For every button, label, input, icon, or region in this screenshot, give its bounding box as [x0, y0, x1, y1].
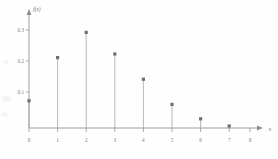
x-tick-label: 5: [171, 137, 174, 143]
x-axis-arrow-icon: [257, 126, 263, 131]
x-tick-label: 3: [114, 137, 117, 143]
x-axis-title: x: [268, 126, 272, 132]
stem-marker: [85, 31, 88, 34]
x-tick-label: 8: [249, 137, 252, 143]
stem-marker: [142, 78, 145, 81]
stem-item: [228, 124, 231, 128]
x-tick-label: 0: [28, 137, 31, 143]
y-tick-group: 0.3 0.2 0.1: [18, 27, 29, 95]
stem-marker: [228, 124, 231, 127]
stem-marker: [27, 99, 30, 102]
stem-marker: [56, 56, 59, 59]
stem-series: [27, 31, 230, 128]
axes-group: [27, 9, 263, 130]
stem-item: [170, 103, 173, 128]
stem-marker: [199, 117, 202, 120]
y-tick-label: 0.1: [18, 89, 25, 95]
stem-marker: [170, 103, 173, 106]
x-tick-label: 1: [56, 137, 59, 143]
y-axis-arrow-icon: [27, 9, 32, 15]
stem-item: [85, 31, 88, 128]
y-axis-title: f(x): [33, 6, 41, 13]
y-tick-label: 0.3: [18, 27, 25, 33]
stem-item: [199, 117, 202, 128]
x-tick-group: 0 1 2 3 4 5 6 7 8: [28, 128, 252, 143]
stem-item: [56, 56, 59, 128]
figure-canvas: 0.3 0.2 0.1 0 1 2 3 4 5 6 7 8: [0, 0, 278, 159]
x-tick-label: 7: [228, 137, 231, 143]
stem-plot: 0.3 0.2 0.1 0 1 2 3 4 5 6 7 8: [0, 0, 278, 159]
x-tick-label: 2: [85, 137, 88, 143]
stem-item: [142, 78, 145, 128]
x-tick-label: 6: [199, 137, 202, 143]
y-tick-label: 0.2: [18, 58, 25, 64]
stem-marker: [113, 52, 116, 55]
x-tick-label: 4: [142, 137, 145, 143]
stem-item: [27, 99, 30, 128]
stem-item: [113, 52, 116, 128]
